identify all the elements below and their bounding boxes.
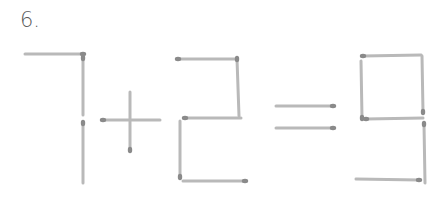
equals-sign bbox=[276, 104, 336, 130]
matchstick-head bbox=[182, 116, 188, 120]
matchstick-head bbox=[421, 109, 425, 115]
matchstick-head bbox=[178, 174, 182, 180]
matchstick-head bbox=[363, 117, 369, 121]
matchstick-head bbox=[330, 126, 336, 130]
matchstick-head bbox=[416, 178, 422, 182]
matchstick[interactable] bbox=[422, 121, 426, 183]
matchstick[interactable] bbox=[421, 56, 425, 115]
matchstick-head bbox=[128, 147, 132, 153]
matchstick[interactable] bbox=[276, 104, 336, 108]
matchstick-body bbox=[356, 179, 419, 180]
matchstick-head bbox=[242, 179, 248, 183]
matchstick[interactable] bbox=[25, 52, 86, 56]
matchstick-head bbox=[235, 56, 239, 62]
matchstick[interactable] bbox=[175, 57, 237, 61]
matchstick-body bbox=[237, 59, 239, 116]
matchstick-head bbox=[81, 55, 85, 61]
matchstick[interactable] bbox=[363, 117, 423, 121]
matchstick[interactable] bbox=[360, 54, 421, 58]
matchstick-body bbox=[366, 118, 423, 119]
matchstick[interactable] bbox=[276, 126, 336, 130]
matchstick[interactable] bbox=[81, 120, 85, 183]
matchstick-body bbox=[361, 61, 362, 118]
matchstick[interactable] bbox=[235, 56, 239, 116]
matchstick[interactable] bbox=[128, 92, 132, 153]
matchstick-body bbox=[424, 124, 425, 183]
matchstick-body bbox=[363, 55, 421, 56]
matchstick[interactable] bbox=[178, 121, 182, 180]
matchstick[interactable] bbox=[81, 55, 85, 115]
matchstick[interactable] bbox=[356, 178, 422, 182]
digit-nine bbox=[356, 54, 426, 183]
matchstick-head bbox=[81, 120, 85, 126]
matchstick-body bbox=[422, 56, 423, 112]
matchstick-equation bbox=[0, 0, 443, 198]
plus-sign bbox=[100, 92, 160, 153]
matchstick-head bbox=[330, 104, 336, 108]
matchstick-head bbox=[422, 121, 426, 127]
matchstick[interactable] bbox=[182, 116, 241, 120]
matchstick-head bbox=[175, 57, 181, 61]
digit-seven bbox=[25, 52, 86, 183]
matchstick-head bbox=[100, 118, 106, 122]
matchstick[interactable] bbox=[183, 179, 248, 183]
digit-two bbox=[175, 56, 248, 183]
matchstick-puzzle: 6. bbox=[0, 0, 443, 198]
matchstick[interactable] bbox=[360, 61, 364, 121]
matchstick-head bbox=[360, 54, 366, 58]
